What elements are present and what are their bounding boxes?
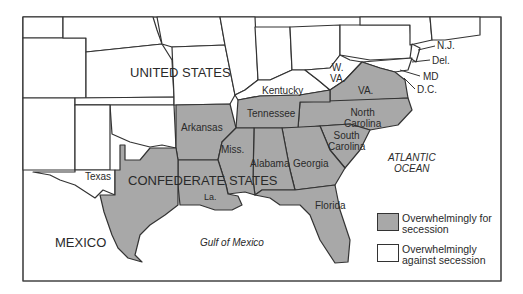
legend-item-against-secession: Overwhelmingly against secession: [377, 244, 485, 266]
legend-label-against-2: against secession: [402, 255, 485, 266]
label-maryland: MD: [423, 71, 439, 82]
legend-item-for-secession: Overwhelmingly for secession: [377, 213, 492, 235]
label-delaware: Del.: [432, 55, 450, 66]
label-dc: D.C.: [417, 84, 437, 95]
label-new-jersey: N.J.: [437, 40, 455, 51]
legend-label-for-2: secession: [402, 224, 492, 235]
legend-swatch-gray: [377, 213, 399, 231]
legend-swatch-white: [377, 244, 399, 262]
